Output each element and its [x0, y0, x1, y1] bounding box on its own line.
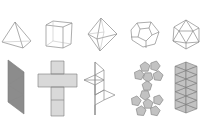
- platonic-solids-diagram: [0, 0, 210, 119]
- solid-tetrahedron: [2, 22, 31, 48]
- pentagon-face: [140, 62, 150, 71]
- solid-icosahedron: [173, 20, 199, 49]
- pentagon-face: [151, 61, 160, 71]
- pentagon-face: [142, 81, 152, 90]
- net-tetrahedron: [8, 60, 24, 114]
- solid-dodecahedron: [131, 22, 159, 48]
- net-icosahedron: [175, 62, 197, 113]
- pentagon-face: [132, 96, 142, 106]
- pentagon-face: [143, 73, 153, 82]
- pentagon-face: [153, 71, 163, 81]
- net-octahedron: [84, 62, 115, 115]
- solid-octahedron: [88, 18, 117, 51]
- pentagon-face: [154, 95, 163, 105]
- solid-cube: [46, 21, 72, 48]
- net-cube: [38, 61, 77, 116]
- net-dodecahedron: [132, 61, 164, 116]
- pentagon-face: [151, 106, 161, 116]
